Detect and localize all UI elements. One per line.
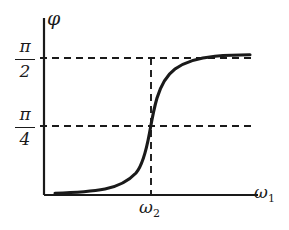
fraction-bar <box>15 59 35 61</box>
plot-canvas <box>0 0 289 230</box>
x-tick-label-omega-2: ω2 <box>139 199 160 216</box>
phase-curve <box>55 55 250 194</box>
pi-over-4-denominator: 4 <box>12 129 38 151</box>
y-tick-label-pi-over-4: π 4 <box>12 104 38 151</box>
x-axis-label-base: ω <box>254 182 268 202</box>
phase-response-figure: φ ω1 ω2 π 2 π 4 <box>0 0 289 230</box>
pi-over-2-denominator: 2 <box>12 61 38 83</box>
y-axis-label: φ <box>47 9 60 28</box>
fraction-bar <box>15 127 35 129</box>
y-tick-label-pi-over-2: π 2 <box>12 36 38 83</box>
x-axis-label: ω1 <box>254 184 275 201</box>
pi-over-2-numerator: π <box>12 36 38 58</box>
omega-2-base: ω <box>139 197 153 217</box>
x-axis-label-subscript: 1 <box>268 192 275 205</box>
omega-2-subscript: 2 <box>153 207 160 220</box>
pi-over-4-numerator: π <box>12 104 38 126</box>
